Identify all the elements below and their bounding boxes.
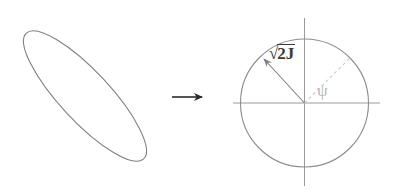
radicand-text: 2J bbox=[277, 44, 295, 62]
phase-space-ellipse bbox=[8, 16, 162, 176]
radius-vector bbox=[264, 59, 305, 103]
radius-vector-label: √2J bbox=[269, 44, 295, 62]
figure-canvas bbox=[0, 0, 404, 196]
angle-label-psi: ψ bbox=[317, 82, 328, 99]
figure-root: √2J ψ bbox=[0, 0, 404, 196]
radical-sign-glyph: √ bbox=[269, 44, 278, 63]
right-panel-group bbox=[233, 18, 380, 186]
left-panel-group bbox=[8, 16, 162, 176]
